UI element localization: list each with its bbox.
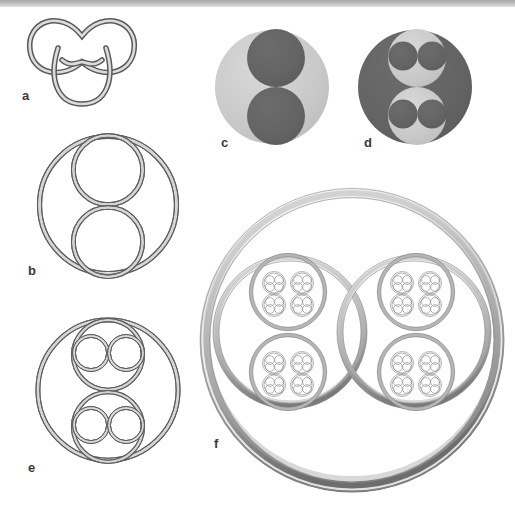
panel-d-filled-disk-level2 [358,29,472,145]
figure-root: a b c [0,0,515,510]
panel-d-label: d [364,135,372,150]
panel-a-label: a [22,88,30,103]
panel-a-trefoil-knot [30,21,135,104]
panel-f-rendered-torus-recursion [201,189,504,492]
figure-canvas: a b c [0,0,515,510]
panel-f-label: f [214,436,219,451]
panel-b-label: b [28,263,36,278]
panel-c-label: c [221,135,228,150]
panel-b-two-nested-rings [38,134,179,279]
panel-c-filled-disk-level1 [215,29,329,145]
panel-e-four-nested-rings [36,318,180,464]
panel-e-label: e [28,460,35,475]
